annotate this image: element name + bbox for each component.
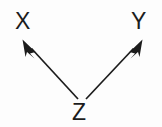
causal-diagram: X Y Z [0,0,162,127]
node-label-z: Z [72,101,86,124]
edge-z-to-x-shaft [32,49,79,100]
node-label-x: X [15,10,30,33]
arrowhead-x-icon [23,40,36,59]
edge-z-to-y-shaft [86,49,134,100]
node-label-y: Y [131,10,146,33]
arrowhead-y-icon [130,40,143,59]
